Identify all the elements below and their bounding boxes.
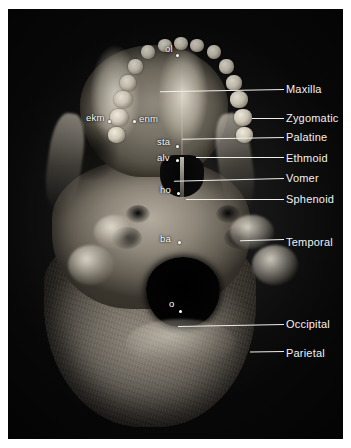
premolar-tooth [120, 75, 136, 91]
foramen-magnum [146, 257, 220, 327]
skull-photograph [8, 9, 343, 439]
landmark-dot-ekm [108, 120, 111, 123]
anatomy-figure: MaxillaZygomaticPalatineEthmoidVomerSphe… [0, 0, 351, 448]
landmark-label-alv: alv [157, 153, 170, 163]
landmark-label-ba: ba [160, 234, 171, 244]
molar-tooth [110, 109, 128, 126]
molar-tooth [234, 109, 252, 126]
canine-tooth [207, 45, 221, 59]
landmark-dot-sta [176, 145, 179, 148]
landmark-dot-enm [133, 120, 136, 123]
petrous-temporal-left [94, 215, 136, 249]
premolar-tooth [128, 59, 143, 74]
mastoid-process-left [68, 245, 114, 285]
bone-label-maxilla: Maxilla [286, 83, 322, 95]
incisor-tooth [190, 39, 204, 52]
landmark-dot-o [179, 310, 182, 313]
petrous-temporal-right [230, 215, 274, 249]
landmark-label-o: o [169, 299, 174, 309]
molar-tooth [108, 127, 125, 143]
leader-line-sphenoid [186, 199, 284, 200]
landmark-label-ekm: ekm [86, 113, 105, 123]
landmark-dot-ol [176, 54, 179, 57]
bone-label-zygomatic: Zygomatic [286, 112, 339, 124]
molar-tooth [236, 127, 253, 143]
leader-line-zygomatic [252, 118, 284, 119]
molar-tooth [230, 91, 248, 108]
landmark-dot-ho [177, 192, 180, 195]
landmark-dot-alv [176, 159, 179, 162]
bone-label-occipital: Occipital [286, 318, 330, 330]
molar-tooth [114, 91, 132, 108]
leader-line-ethmoid [196, 157, 284, 158]
landmark-dot-ba [178, 241, 181, 244]
premolar-tooth [219, 59, 234, 74]
landmark-label-ol: ol [165, 44, 173, 54]
bone-label-vomer: Vomer [286, 172, 319, 184]
landmark-label-ho: ho [160, 185, 171, 195]
canine-tooth [141, 45, 155, 59]
bone-label-ethmoid: Ethmoid [286, 152, 328, 164]
premolar-tooth [226, 75, 242, 91]
incisor-tooth [174, 37, 188, 50]
mastoid-process-right [252, 245, 298, 285]
bone-label-temporal: Temporal [286, 236, 333, 248]
vomer-ridge [180, 157, 184, 201]
landmark-label-sta: sta [157, 137, 170, 147]
bone-label-palatine: Palatine [286, 131, 327, 143]
bone-label-sphenoid: Sphenoid [286, 193, 334, 205]
bone-label-parietal: Parietal [286, 347, 325, 359]
landmark-label-enm: enm [139, 114, 158, 124]
